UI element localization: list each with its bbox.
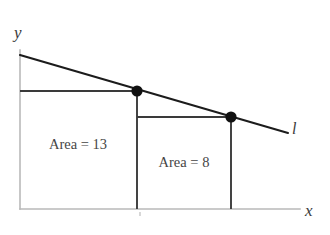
x-axis-label: x	[304, 201, 313, 220]
point-2-dot	[225, 111, 236, 122]
line-l-label: l	[292, 120, 297, 137]
rect-right-area-label: Area = 8	[159, 154, 210, 170]
figure-canvas: y x l Area = 13 Area = 8	[0, 0, 330, 235]
area-diagram: y x l Area = 13 Area = 8	[0, 0, 330, 235]
rect-left-area-label: Area = 13	[49, 136, 107, 152]
point-1-dot	[131, 85, 142, 96]
line-l	[20, 55, 288, 133]
y-axis-label: y	[12, 23, 22, 42]
